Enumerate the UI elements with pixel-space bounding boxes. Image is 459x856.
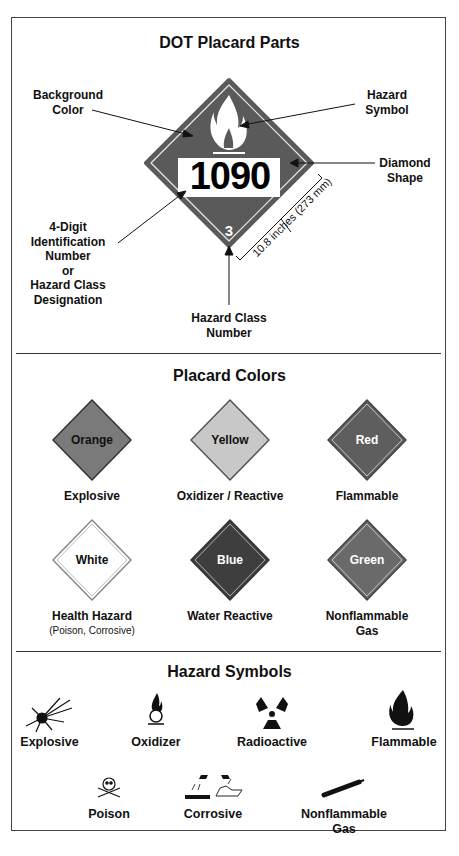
symbol-label-poison: Poison <box>79 807 139 822</box>
hazard-symbol-icons <box>0 0 459 856</box>
trefoil-icon <box>256 697 288 729</box>
symbol-label-nonflammable-gas: Nonflammable Gas <box>298 807 390 836</box>
symbol-label-explosive: Explosive <box>12 735 87 750</box>
symbol-label-oxidizer: Oxidizer <box>121 735 191 750</box>
corrosive-icon <box>185 775 242 799</box>
gas-cylinder-icon <box>324 780 364 795</box>
skull-crossbones-icon <box>98 778 120 797</box>
flame-icon <box>389 690 414 729</box>
flame-over-circle-icon <box>148 693 164 724</box>
symbol-label-radioactive: Radioactive <box>231 735 313 750</box>
symbol-label-corrosive: Corrosive <box>177 807 249 822</box>
explosion-icon <box>26 698 72 732</box>
symbol-label-flammable: Flammable <box>364 735 444 750</box>
